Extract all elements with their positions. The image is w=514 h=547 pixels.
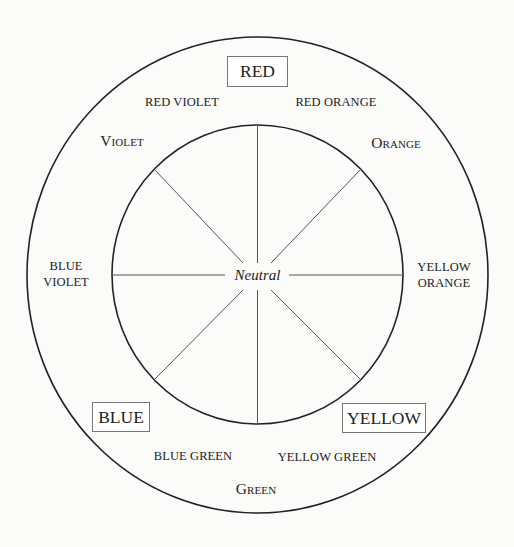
blue-violet-line2: VIOLET: [43, 274, 89, 290]
tertiary-blue-green-label: BLUE GREEN: [154, 448, 232, 464]
primary-red-label: RED: [227, 56, 288, 87]
spoke-se: [271, 290, 361, 380]
tertiary-yellow-green-label: YELLOW GREEN: [278, 449, 377, 465]
spoke-nw: [154, 169, 243, 263]
yellow-orange-line1: YELLOW: [417, 259, 470, 275]
tertiary-red-orange-label: RED ORANGE: [295, 94, 376, 110]
tertiary-yellow-orange-label: YELLOW ORANGE: [417, 259, 470, 291]
secondary-violet-label: Violet: [100, 133, 144, 149]
spoke-ne: [271, 169, 361, 263]
tertiary-red-violet-label: RED VIOLET: [145, 94, 219, 110]
blue-violet-line1: BLUE: [43, 258, 89, 274]
spoke-sw: [154, 290, 243, 380]
neutral-label: Neutral: [235, 267, 281, 284]
tertiary-blue-violet-label: BLUE VIOLET: [43, 258, 89, 290]
secondary-green-label: Green: [236, 481, 276, 497]
secondary-orange-label: Orange: [371, 135, 421, 151]
primary-blue-label: BLUE: [92, 402, 150, 432]
primary-yellow-label: YELLOW: [342, 403, 426, 433]
yellow-orange-line2: ORANGE: [417, 275, 470, 291]
